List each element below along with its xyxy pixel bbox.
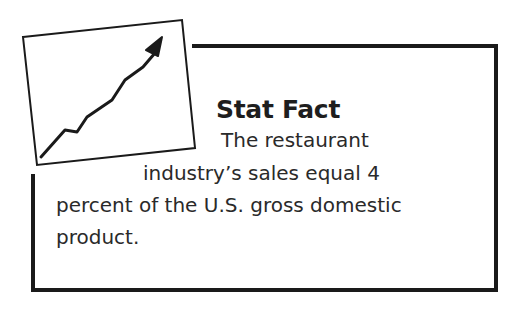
stat-fact-text-line-1: The restaurant <box>221 128 369 152</box>
box-border-right <box>494 44 498 292</box>
box-border-top <box>192 44 497 48</box>
stat-fact-text-line-3: percent of the U.S. gross domestic <box>56 193 402 217</box>
box-border-bottom <box>31 288 498 292</box>
stat-fact-text-line-4: product. <box>56 225 139 249</box>
box-border-left <box>31 174 35 292</box>
stat-fact-title: Stat Fact <box>216 95 340 124</box>
stat-fact-text-line-2: industry’s sales equal 4 <box>143 161 380 185</box>
rising-line-chart-icon <box>0 0 200 170</box>
